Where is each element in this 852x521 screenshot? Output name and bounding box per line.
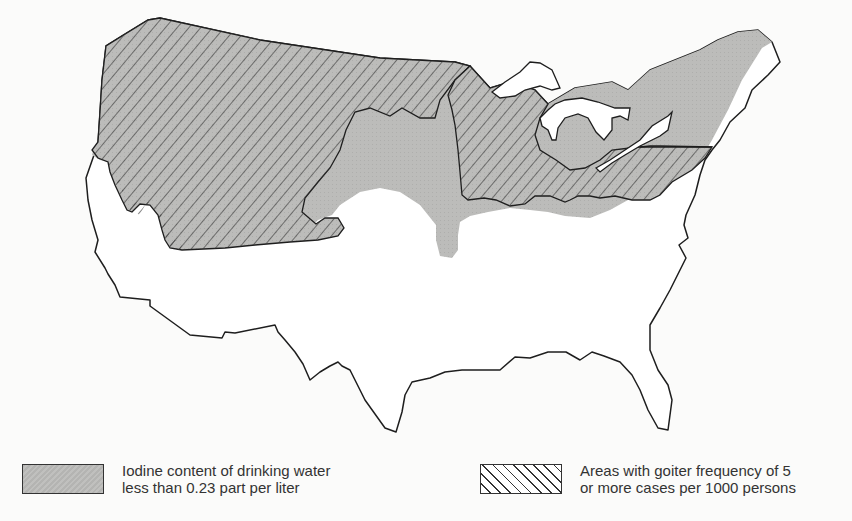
legend-label-goiter: Areas with goiter frequency of 5 or more…: [580, 462, 796, 496]
legend-swatch-hatch: [480, 464, 562, 494]
us-goiter-iodine-map: [0, 0, 852, 440]
legend-label-iodine: Iodine content of drinking water less th…: [122, 462, 330, 496]
legend-item-goiter: Areas with goiter frequency of 5 or more…: [480, 462, 796, 496]
legend-swatch-gray: [22, 464, 104, 494]
legend-item-iodine: Iodine content of drinking water less th…: [22, 462, 330, 496]
